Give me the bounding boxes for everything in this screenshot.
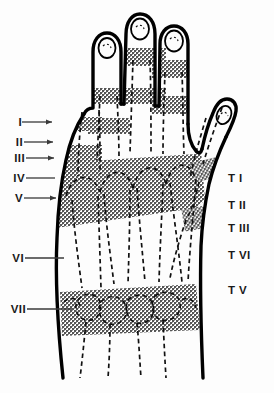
label-level-7: VII [2,303,26,315]
label-thumb-level-5: T V [228,284,247,296]
label-thumb-level-2: T II [228,199,246,211]
band-carpal-wrist [60,284,200,336]
label-thumb-level-1: T I [228,172,243,184]
label-level-4: IV [2,172,25,184]
label-level-1: I [2,116,22,128]
hand-dermatome-figure: I II III IV V VI VII T I T II T III T VI… [0,0,274,393]
label-level-5: V [2,192,23,204]
label-thumb-level-6: T VI [228,249,251,261]
label-thumb-level-3: T III [228,222,250,234]
label-level-6: VI [2,252,24,264]
label-level-2: II [2,136,23,148]
hand-drawing [0,0,274,393]
band-f2-middle [88,118,130,134]
label-level-3: III [2,152,25,164]
